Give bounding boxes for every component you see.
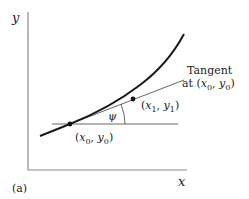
point0-label: (x0, y0): [75, 131, 113, 146]
angle-psi-label: ψ: [108, 110, 117, 123]
x-axis-label: x: [178, 174, 186, 189]
axes: [28, 12, 187, 170]
y-axis-label: y: [11, 10, 20, 25]
tangent-label-line1: Tangent: [187, 64, 233, 77]
angle-arc: [121, 104, 125, 124]
tangent-label-line2: at (x0, y0): [182, 77, 235, 92]
panel-label: (a): [12, 182, 27, 195]
point-x1-y1: [131, 97, 136, 102]
point-x0-y0: [68, 122, 73, 127]
point1-label: (x1, y1): [141, 99, 179, 114]
tangent-diagram: y x (a) Tangent at (x0, y0) (x1, y1) (x0…: [0, 0, 249, 199]
